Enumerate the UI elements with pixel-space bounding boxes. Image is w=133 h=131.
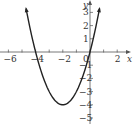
parabola-graph: −6−4−202 321−1−2−3−4−5 x y <box>0 0 133 131</box>
x-tick-label: −6 <box>3 54 17 64</box>
curve-arrow-left-icon <box>25 7 29 12</box>
y-axis-arrow-icon <box>88 0 92 5</box>
y-tick-label: −4 <box>79 100 93 110</box>
curve-arrow-right-icon <box>97 7 101 12</box>
y-tick-label: 1 <box>83 34 89 44</box>
y-tick-label: −3 <box>79 87 93 97</box>
y-tick-label: −5 <box>79 113 93 123</box>
x-axis-label: x <box>127 54 132 64</box>
x-tick-label: −2 <box>58 54 71 64</box>
x-tick-labels: −6−4−202 <box>3 54 120 64</box>
y-tick-label: 2 <box>83 21 89 31</box>
y-axis-label: y <box>82 0 89 10</box>
x-tick-label: 2 <box>115 54 121 64</box>
